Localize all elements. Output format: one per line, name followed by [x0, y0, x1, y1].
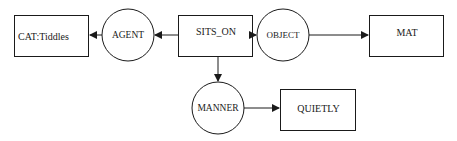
node-sits-on-label: SITS_ON — [179, 16, 253, 46]
node-quietly-label: QUIETLY — [281, 90, 356, 126]
node-agent-label: AGENT — [102, 9, 154, 61]
node-cat-label: CAT:Tiddles — [15, 16, 89, 57]
node-mat-label: MAT — [370, 16, 444, 48]
node-manner-label: MANNER — [192, 82, 244, 134]
node-object-label: OBJECT — [257, 9, 309, 61]
